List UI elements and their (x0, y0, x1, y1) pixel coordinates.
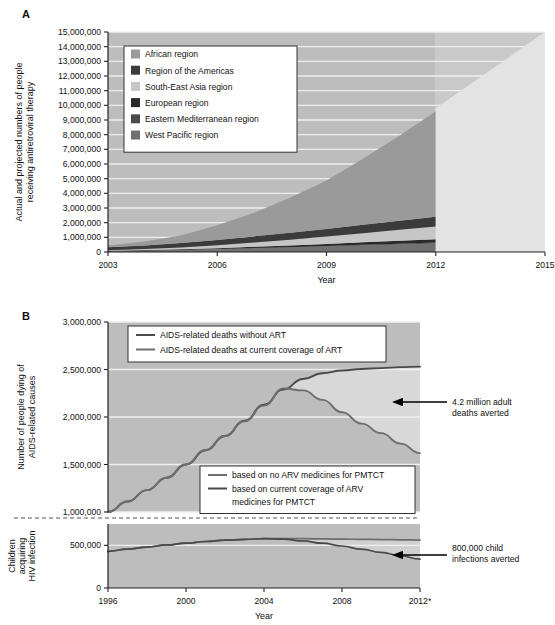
panel-a-legend-swatch (131, 98, 140, 107)
panel-a-y-tick-label: 14,000,000 (58, 42, 101, 52)
panel-a-y-tick-label: 2,000,000 (63, 218, 101, 228)
panel-a-chart: 01,000,0002,000,0003,000,0004,000,0005,0… (0, 0, 555, 300)
panel-b: B 1,000,0001,500,0002,000,0002,500,0003,… (0, 300, 555, 625)
panel-a-x-axis-title: Year (317, 275, 335, 285)
panel-a-y-tick-label: 4,000,000 (63, 188, 101, 198)
panel-a-y-tick-label: 13,000,000 (58, 56, 101, 66)
panel-b-lower-annotation-text: 800,000 child (452, 543, 503, 553)
panel-b-lower-legend-label: medicines for PMTCT (232, 497, 316, 507)
panel-a-legend-swatch (131, 82, 140, 91)
panel-a: A 01,000,0002,000,0003,000,0004,000,0005… (0, 0, 555, 300)
panel-b-y-tick-label: 2,500,000 (63, 365, 101, 375)
panel-a-x-tick-label: 2006 (208, 260, 227, 270)
panel-a-legend-label: South-East Asia region (145, 82, 233, 92)
panel-b-x-tick-label: 2012* (409, 596, 432, 606)
panel-a-y-tick-label: 8,000,000 (63, 130, 101, 140)
panel-a-y-tick-label: 0 (96, 247, 101, 257)
panel-b-y-tick-label: 1,000,000 (63, 507, 101, 517)
panel-b-x-axis-title: Year (255, 611, 273, 621)
panel-a-y-tick-label: 12,000,000 (58, 71, 101, 81)
panel-b-y-tick-label: 0 (96, 583, 101, 593)
panel-a-y-tick-label: 15,000,000 (58, 27, 101, 37)
panel-b-upper-legend-label: AIDS-related deaths without ART (160, 330, 287, 340)
panel-b-upper-y-axis-title: Number of people dying ofAIDS-related ca… (16, 364, 37, 470)
panel-b-x-tick-label: 2004 (254, 596, 273, 606)
panel-a-legend-swatch (131, 66, 140, 75)
panel-a-legend-swatch (131, 114, 140, 123)
panel-a-legend-swatch (131, 50, 140, 59)
panel-b-lower-annotation-text: infections averted (452, 554, 520, 564)
panel-b-x-tick-label: 1996 (98, 596, 117, 606)
svg-text:HIV infection: HIV infection (27, 530, 37, 581)
panel-a-y-tick-label: 11,000,000 (59, 86, 102, 96)
panel-b-lower-legend-label: based on current coverage of ARV (232, 484, 363, 494)
panel-a-y-tick-label: 5,000,000 (63, 174, 101, 184)
panel-b-lower-legend-label: based on no ARV medicines for PMTCT (232, 470, 385, 480)
panel-a-y-axis-title: Actual and projected numbers of peoplere… (14, 62, 35, 221)
panel-b-y-tick-label: 2,000,000 (63, 412, 101, 422)
panel-a-x-tick-label: 2015 (535, 260, 554, 270)
panel-a-y-tick-label: 1,000,000 (63, 232, 101, 242)
panel-a-legend-label: African region (145, 49, 198, 59)
panel-a-y-tick-label: 9,000,000 (63, 115, 101, 125)
svg-text:receiving antiretroviral thera: receiving antiretroviral therapy (25, 81, 35, 202)
panel-b-upper-annotation-text: 4.2 million adult (452, 397, 512, 407)
panel-a-x-tick-label: 2009 (317, 260, 336, 270)
panel-b-lower-background (108, 524, 420, 588)
panel-b-x-tick-label: 2000 (176, 596, 195, 606)
panel-b-letter: B (22, 310, 30, 322)
panel-b-upper-annotation-text: deaths averted (452, 408, 509, 418)
panel-a-x-tick-label: 2003 (98, 260, 117, 270)
panel-a-legend-label: European region (145, 98, 209, 108)
panel-a-legend-label: Region of the Americas (145, 66, 234, 76)
panel-a-legend-swatch (131, 131, 140, 140)
panel-a-legend-label: Eastern Mediterranean region (145, 114, 259, 124)
panel-a-letter: A (22, 8, 30, 20)
svg-text:Actual and projected numbers o: Actual and projected numbers of people (14, 62, 24, 221)
svg-text:acquiring: acquiring (17, 538, 27, 575)
svg-text:AIDS-related causes: AIDS-related causes (27, 375, 37, 458)
panel-b-lower-y-axis-title: ChildrenacquiringHIV infection (7, 530, 37, 581)
panel-a-y-tick-label: 3,000,000 (63, 203, 101, 213)
panel-b-y-tick-label: 500,000 (70, 540, 101, 550)
panel-b-upper-legend-label: AIDS-related deaths at current coverage … (160, 345, 343, 355)
panel-b-y-tick-label: 1,500,000 (63, 460, 101, 470)
panel-b-x-tick-label: 2008 (332, 596, 351, 606)
panel-a-x-tick-label: 2012 (426, 260, 445, 270)
panel-a-y-tick-label: 7,000,000 (63, 144, 101, 154)
svg-text:Number of people dying of: Number of people dying of (16, 364, 26, 470)
panel-b-y-tick-label: 3,000,000 (63, 317, 101, 327)
panel-a-y-tick-label: 10,000,000 (58, 100, 101, 110)
panel-a-legend-label: West Pacific region (145, 130, 219, 140)
panel-b-chart: 1,000,0001,500,0002,000,0002,500,0003,00… (0, 300, 555, 625)
svg-text:Children: Children (7, 539, 17, 573)
panel-a-y-tick-label: 6,000,000 (63, 159, 101, 169)
